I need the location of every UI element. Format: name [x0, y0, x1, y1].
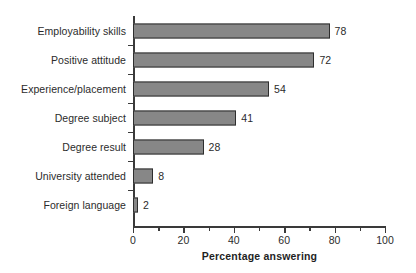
- plot-area: Employability skills78Positive attitude7…: [133, 16, 385, 226]
- x-axis-tick-label: 0: [130, 234, 136, 246]
- bar-row: Employability skills78: [133, 16, 385, 45]
- category-label: Degree subject: [55, 112, 126, 124]
- x-axis-tick-label: 20: [178, 234, 190, 246]
- bar-row: Experience/placement54: [133, 74, 385, 103]
- bar-row: University attended8: [133, 161, 385, 190]
- x-axis-major-tick: [234, 227, 235, 233]
- bar-value-label: 41: [241, 112, 253, 124]
- x-axis-major-tick: [183, 227, 184, 233]
- y-axis-tick: [128, 45, 133, 46]
- bar-row: Degree subject41: [133, 103, 385, 132]
- bar-value-label: 8: [158, 170, 164, 182]
- y-axis-tick: [128, 103, 133, 104]
- bar-row: Positive attitude72: [133, 45, 385, 74]
- x-axis-minor-tick: [309, 227, 310, 231]
- x-axis-minor-tick: [360, 227, 361, 231]
- bar: [133, 52, 314, 67]
- x-axis-tick-label: 80: [329, 234, 341, 246]
- bar-chart: Employability skills78Positive attitude7…: [0, 0, 416, 273]
- x-axis-major-tick: [133, 227, 134, 233]
- x-axis-tick-label: 100: [376, 234, 394, 246]
- bar-value-label: 72: [319, 54, 331, 66]
- x-axis-major-tick: [284, 227, 285, 233]
- bar: [133, 110, 236, 125]
- category-label: Experience/placement: [21, 83, 126, 95]
- bar-row: Degree result28: [133, 132, 385, 161]
- bar: [133, 23, 330, 38]
- category-label: Employability skills: [37, 25, 126, 37]
- bar: [133, 81, 269, 96]
- bar: [133, 197, 138, 212]
- y-axis-tick: [128, 132, 133, 133]
- x-axis-tick-label: 40: [228, 234, 240, 246]
- bar-value-label: 78: [335, 25, 347, 37]
- bar: [133, 139, 204, 154]
- y-axis-tick: [128, 190, 133, 191]
- category-label: University attended: [35, 170, 126, 182]
- category-label: Degree result: [62, 141, 126, 153]
- x-axis-major-tick: [335, 227, 336, 233]
- x-axis-minor-tick: [158, 227, 159, 231]
- category-label: Foreign language: [43, 199, 126, 211]
- bar-value-label: 28: [209, 141, 221, 153]
- category-label: Positive attitude: [51, 54, 126, 66]
- x-axis-tick-label: 60: [278, 234, 290, 246]
- bar-value-label: 54: [274, 83, 286, 95]
- y-axis-tick: [128, 161, 133, 162]
- bar-value-label: 2: [143, 199, 149, 211]
- x-axis-major-tick: [385, 227, 386, 233]
- x-axis-minor-tick: [259, 227, 260, 231]
- bar-row: Foreign language2: [133, 190, 385, 219]
- bar: [133, 168, 153, 183]
- x-axis-minor-tick: [209, 227, 210, 231]
- x-axis-title: Percentage answering: [133, 250, 386, 262]
- y-axis-tick: [128, 74, 133, 75]
